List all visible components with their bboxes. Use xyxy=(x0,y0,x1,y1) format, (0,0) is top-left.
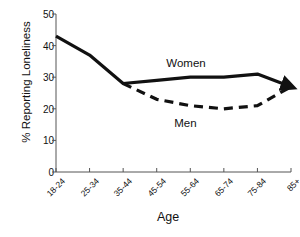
axis-lines xyxy=(52,14,291,172)
series-label-men: Men xyxy=(174,117,196,129)
plot-canvas xyxy=(0,0,300,237)
x-axis-title-text: Age xyxy=(157,210,179,224)
x-axis-title: Age xyxy=(0,210,300,224)
loneliness-by-age-chart: % Reporting Loneliness 01020304050 18-24… xyxy=(0,0,300,237)
series-label-women: Women xyxy=(166,57,205,69)
series-line-men xyxy=(123,84,291,109)
